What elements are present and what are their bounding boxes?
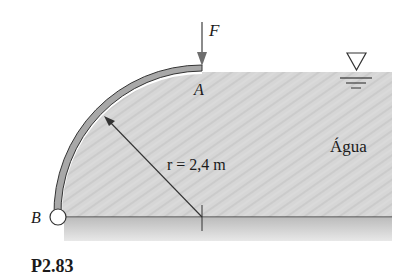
force-label: F xyxy=(208,21,220,40)
diagram-canvas: F A B r = 2,4 m Água P2.83 xyxy=(0,0,409,280)
radius-label: r = 2,4 m xyxy=(167,156,226,173)
fluid-label: Água xyxy=(330,137,367,156)
point-a-label: A xyxy=(193,81,204,98)
free-surface-triangle-icon xyxy=(347,53,366,70)
force-arrowhead-icon xyxy=(197,52,207,66)
floor-region xyxy=(64,218,392,241)
hinge-b xyxy=(50,209,66,225)
point-b-label: B xyxy=(31,209,41,226)
figure-caption: P2.83 xyxy=(31,256,74,276)
